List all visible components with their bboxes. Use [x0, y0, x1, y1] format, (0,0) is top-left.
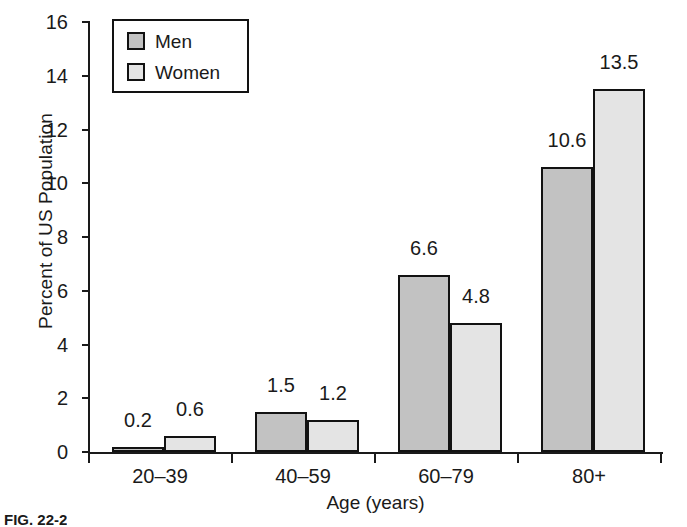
y-tick-label: 4 [22, 335, 68, 355]
x-tick-label: 60–79 [418, 466, 474, 486]
x-tick-label: 80+ [572, 466, 606, 486]
bar-value-label: 1.2 [319, 383, 347, 403]
x-tick-label: 20–39 [132, 466, 188, 486]
bar-men-20-39[interactable] [112, 447, 164, 452]
bar-men-80plus[interactable] [541, 167, 593, 452]
x-tick-mark [88, 454, 90, 463]
y-tick-label: 0 [22, 442, 68, 462]
bar-value-label: 4.8 [462, 286, 490, 306]
bar-value-label: 10.6 [548, 130, 587, 150]
x-tick-mark [517, 454, 519, 463]
bar-women-80plus[interactable] [593, 89, 645, 452]
bar-value-label: 0.6 [176, 399, 204, 419]
legend-swatch-icon [127, 32, 145, 50]
bar-value-label: 0.2 [124, 410, 152, 430]
bar-women-40-59[interactable] [307, 420, 359, 452]
bar-men-60-79[interactable] [398, 275, 450, 452]
legend-item-men[interactable]: Men [127, 29, 192, 53]
y-tick-label: 14 [22, 66, 68, 86]
x-tick-mark [374, 454, 376, 463]
y-tick-label: 12 [22, 120, 68, 140]
y-axis-tick-labels: 16 14 12 10 8 6 4 2 0 [22, 0, 68, 527]
legend: Men Women [112, 19, 249, 93]
x-axis-title: Age (years) [88, 492, 663, 514]
bar-men-40-59[interactable] [255, 412, 307, 452]
bar-value-label: 6.6 [410, 238, 438, 258]
y-tick-label: 8 [22, 227, 68, 247]
legend-label: Women [155, 63, 220, 82]
y-tick-label: 16 [22, 12, 68, 32]
bar-value-label: 13.5 [600, 52, 639, 72]
bar-women-60-79[interactable] [450, 323, 502, 452]
y-tick-label: 10 [22, 173, 68, 193]
bar-women-20-39[interactable] [164, 436, 216, 452]
figure-caption: FIG. 22-2 [4, 511, 67, 527]
y-tick-label: 2 [22, 388, 68, 408]
legend-label: Men [155, 32, 192, 51]
x-tick-label: 40–59 [275, 466, 331, 486]
legend-swatch-icon [127, 63, 145, 81]
figure-number: FIG. 22-2 [4, 511, 67, 527]
bar-value-label: 1.5 [267, 375, 295, 395]
x-tick-mark [231, 454, 233, 463]
y-tick-label: 6 [22, 281, 68, 301]
legend-item-women[interactable]: Women [127, 60, 220, 84]
x-tick-mark [660, 454, 662, 463]
bar-chart-figure: Percent of US Population 16 14 12 10 8 6… [0, 0, 687, 527]
